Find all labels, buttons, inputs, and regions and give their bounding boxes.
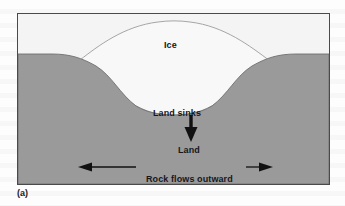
land-sinks-label: Land sinks xyxy=(153,109,201,118)
land-label: Land xyxy=(178,146,200,155)
figure-frame: Ice Land sinks Land Rock flows outward xyxy=(17,13,330,185)
figure-caption: (a) xyxy=(17,189,28,198)
ice-label: Ice xyxy=(164,41,177,50)
rock-flows-outward-label: Rock flows outward xyxy=(146,175,233,184)
